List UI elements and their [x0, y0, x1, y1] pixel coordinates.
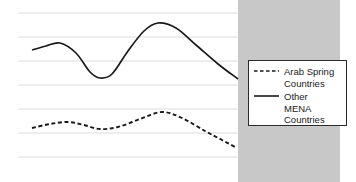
legend-label-other-mena: Other MENA Countries — [284, 91, 325, 126]
series-line-other-mena-countries — [32, 23, 238, 79]
dashed-line-icon — [254, 69, 279, 81]
series-line-arab-spring-countries — [32, 112, 235, 147]
legend-label-arab-spring: Arab Spring Countries — [284, 66, 334, 89]
chart-legend: Arab Spring Countries Other MENA Countri… — [248, 60, 347, 126]
legend-item-other-mena[interactable]: Other MENA Countries — [254, 91, 342, 126]
solid-line-icon — [254, 94, 279, 106]
chart-container: Arab Spring Countries Other MENA Countri… — [0, 0, 356, 182]
legend-item-arab-spring[interactable]: Arab Spring Countries — [254, 66, 342, 89]
